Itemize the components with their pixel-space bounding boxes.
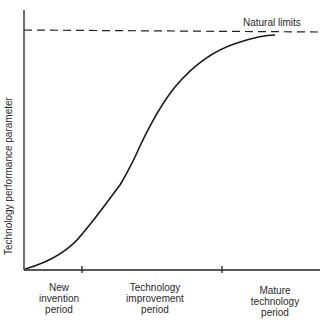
s-curve xyxy=(25,35,275,269)
natural-limits-label: Natural limits xyxy=(243,17,301,28)
period-label-technology-improvement: Technology improvement period xyxy=(115,282,195,315)
y-axis-label: Technology performance parameter xyxy=(3,97,14,255)
period-label-mature-technology: Mature technology period xyxy=(240,285,310,318)
s-curve-diagram xyxy=(0,0,323,322)
period-label-new-invention: New invention period xyxy=(30,282,88,315)
natural-limits-line xyxy=(24,30,320,32)
